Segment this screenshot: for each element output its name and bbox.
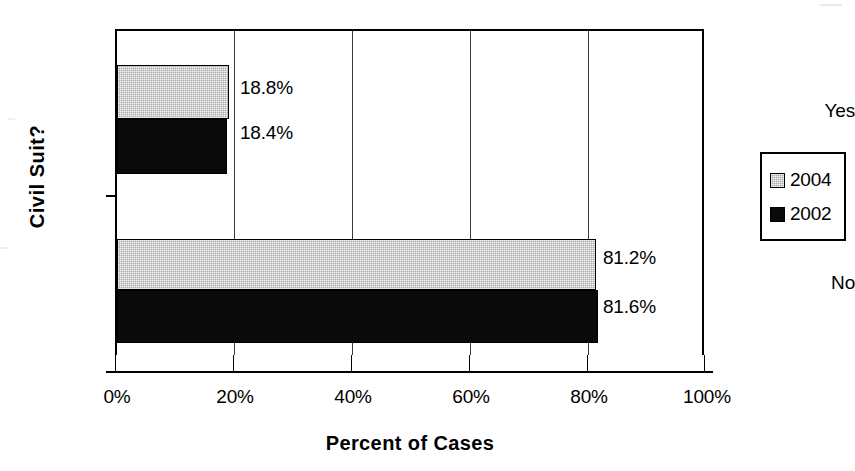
xtick-label-100: 100% [683,386,731,408]
legend-item-2002[interactable]: 2002 [770,199,844,229]
value-label-yes-2002: 18.4% [240,122,293,144]
xtick-mark-0 [115,355,116,372]
bar-yes-2002[interactable] [117,119,227,174]
value-label-no-2002: 81.6% [603,296,656,318]
ytick-mark-boundary [106,195,115,197]
scan-artifact [820,4,842,6]
xtick-label-40: 40% [334,386,371,408]
legend-swatch-2002-icon [770,207,785,222]
x-axis-title: Percent of Cases [0,432,820,455]
legend-swatch-2004-icon [770,173,785,188]
xtick-label-0: 0% [103,386,130,408]
x-axis-line [106,371,713,373]
ytick-label-no: No [747,272,855,294]
xtick-label-80: 80% [570,386,607,408]
bar-yes-2004[interactable] [117,65,229,119]
scan-artifact [0,247,8,249]
legend-label-2002: 2002 [790,203,831,225]
legend-label-2004: 2004 [790,169,831,191]
xtick-mark-60 [469,355,470,372]
value-label-no-2004: 81.2% [603,247,656,269]
legend: 2004 2002 [760,152,846,241]
scan-artifact [8,118,15,120]
y-axis-title: Civil Suit? [26,92,49,262]
bar-no-2002[interactable] [117,290,598,343]
xtick-mark-40 [351,355,352,372]
legend-item-2004[interactable]: 2004 [770,165,844,195]
xtick-label-60: 60% [452,386,489,408]
bar-chart: 18.8% 18.4% 81.2% 81.6% 0% 20% 40% 60% 8… [0,0,855,471]
value-label-yes-2004: 18.8% [240,77,293,99]
xtick-mark-80 [587,355,588,372]
xtick-mark-100 [704,355,705,372]
bar-no-2004[interactable] [117,239,596,290]
xtick-label-20: 20% [216,386,253,408]
xtick-mark-20 [233,355,234,372]
ytick-label-yes: Yes [747,100,855,122]
